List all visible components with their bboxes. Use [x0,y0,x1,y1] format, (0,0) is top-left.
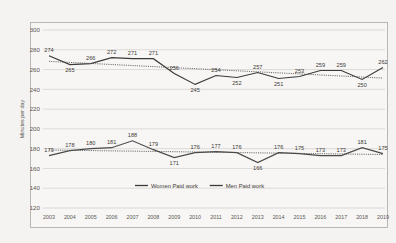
x-tick-2019: 2019 [377,214,389,220]
y-tick-220: 220 [30,105,41,112]
y-tick-160: 160 [30,165,41,172]
data-label-women-2009: 256 [170,65,179,71]
data-label-women-2013: 257 [253,64,262,70]
data-label-women-2014: 251 [274,81,283,87]
x-tick-2013: 2013 [252,214,264,220]
y-axis-title: Minutes per day [19,100,25,139]
x-tick-2003: 2003 [43,214,55,220]
legend-label-men: Men Paid work [226,183,264,189]
data-label-women-2011: 254 [211,67,220,73]
data-label-men-2005: 180 [86,140,95,146]
data-label-men-2004: 178 [65,142,74,148]
x-tick-2004: 2004 [64,214,76,220]
data-label-men-2014: 176 [274,144,283,150]
data-label-men-2013: 166 [253,165,262,171]
data-label-men-2015: 175 [295,145,304,151]
y-tick-120: 120 [30,204,41,211]
y-tick-260: 260 [30,66,41,73]
y-tick-240: 240 [30,86,41,93]
data-label-women-2004: 265 [65,67,74,73]
data-label-men-2016: 173 [316,147,325,153]
y-tick-280: 280 [30,46,41,53]
data-label-women-2018: 250 [357,82,366,88]
y-tick-180: 180 [30,145,41,152]
data-label-men-2003: 173 [44,147,53,153]
data-label-men-2017: 173 [337,147,346,153]
x-tick-2008: 2008 [147,214,159,220]
x-tick-2015: 2015 [294,214,306,220]
trendline-men [49,150,383,154]
data-label-men-2019: 175 [378,145,387,151]
data-label-women-2017: 259 [337,62,346,68]
data-label-women-2008: 271 [149,50,158,56]
data-label-women-2010: 245 [190,87,199,93]
chart-container: 120140160180200220240260280300Minutes pe… [0,0,396,243]
x-tick-2018: 2018 [356,214,368,220]
data-label-women-2007: 271 [128,50,137,56]
data-label-women-2015: 253 [295,68,304,74]
line-chart: 120140160180200220240260280300Minutes pe… [0,0,396,243]
data-label-women-2012: 252 [232,80,241,86]
x-tick-2010: 2010 [189,214,201,220]
x-tick-2005: 2005 [85,214,97,220]
data-label-women-2019: 262 [378,59,387,65]
x-tick-2009: 2009 [168,214,180,220]
data-label-men-2009: 171 [170,160,179,166]
legend-label-women: Women Paid work [151,183,198,189]
data-label-men-2008: 179 [149,141,158,147]
x-tick-2012: 2012 [231,214,243,220]
x-tick-2014: 2014 [273,214,285,220]
y-tick-300: 300 [30,26,41,33]
y-tick-200: 200 [30,125,41,132]
data-label-women-2016: 259 [316,62,325,68]
y-tick-140: 140 [30,184,41,191]
x-tick-2006: 2006 [106,214,118,220]
data-label-men-2007: 188 [128,132,137,138]
data-label-men-2012: 176 [232,144,241,150]
data-label-women-2003: 274 [44,47,53,53]
data-label-women-2005: 266 [86,55,95,61]
x-tick-2007: 2007 [127,214,139,220]
data-label-men-2018: 181 [357,139,366,145]
data-label-men-2011: 177 [211,143,220,149]
x-tick-2011: 2011 [210,214,222,220]
data-label-men-2006: 181 [107,139,116,145]
data-label-men-2010: 176 [190,144,199,150]
data-label-women-2006: 272 [107,49,116,55]
x-tick-2016: 2016 [314,214,326,220]
x-tick-2017: 2017 [335,214,347,220]
